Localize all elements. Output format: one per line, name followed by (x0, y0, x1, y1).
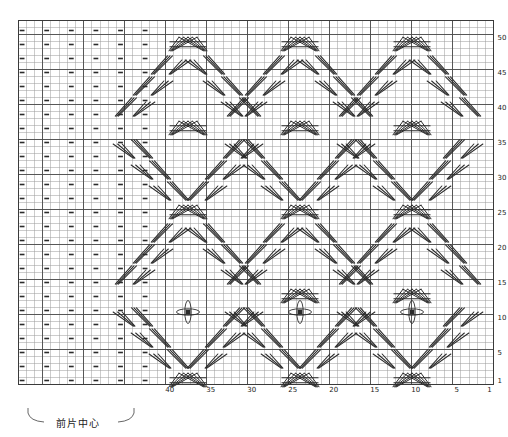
bobble-center-dot (298, 310, 303, 315)
right-axis-tick-label: 35 (498, 139, 507, 147)
right-axis-tick-label: 50 (498, 34, 507, 42)
knitting-chart-svg: 151015202530354045501510152025303540 (0, 0, 508, 437)
right-axis-tick-label: 25 (498, 209, 507, 217)
right-axis-labels: 15101520253035404550 (498, 34, 507, 385)
bottom-axis-tick-label: 25 (288, 386, 297, 394)
right-axis-tick-label: 10 (498, 314, 507, 322)
right-axis-tick-label: 5 (498, 349, 502, 357)
front-center-label: 前片中心 (56, 415, 100, 430)
bottom-axis-tick-label: 1 (487, 386, 491, 394)
bottom-axis-tick-label: 20 (329, 386, 338, 394)
bottom-axis-tick-label: 15 (370, 386, 379, 394)
bottom-axis-tick-label: 35 (206, 386, 215, 394)
bracket-right-arm (118, 408, 134, 422)
right-axis-tick-label: 30 (498, 174, 507, 182)
bobble-center-dot (410, 310, 415, 315)
right-axis-tick-label: 45 (498, 69, 507, 77)
right-axis-tick-label: 15 (498, 279, 507, 287)
bottom-axis-tick-label: 40 (165, 386, 174, 394)
bracket-left-arm (28, 408, 44, 422)
bobble-center-dot (186, 310, 191, 315)
right-axis-tick-label: 20 (498, 244, 507, 252)
knitting-chart-page: 151015202530354045501510152025303540 前片中… (0, 0, 508, 437)
right-axis-tick-label: 40 (498, 104, 507, 112)
bottom-axis-tick-label: 5 (454, 386, 458, 394)
bottom-axis-labels: 1510152025303540 (165, 386, 491, 394)
right-axis-tick-label: 1 (498, 377, 502, 385)
bottom-axis-tick-label: 10 (411, 386, 420, 394)
bottom-axis-tick-label: 30 (247, 386, 256, 394)
